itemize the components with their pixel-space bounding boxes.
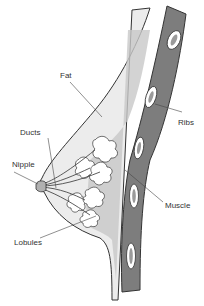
label-lobules: Lobules: [14, 239, 42, 247]
nipple: [36, 181, 46, 192]
label-fat: Fat: [60, 72, 72, 80]
fat-leader: [70, 82, 102, 117]
label-nipple: Nipple: [12, 161, 35, 169]
label-ducts: Ducts: [20, 129, 40, 137]
label-muscle: Muscle: [165, 202, 190, 210]
anatomy-illustration: [0, 0, 204, 306]
nipple-leader: [14, 172, 38, 184]
label-ribs: Ribs: [178, 119, 194, 127]
breast-anatomy-diagram: Fat Ducts Nipple Lobules Ribs Muscle: [0, 0, 204, 306]
